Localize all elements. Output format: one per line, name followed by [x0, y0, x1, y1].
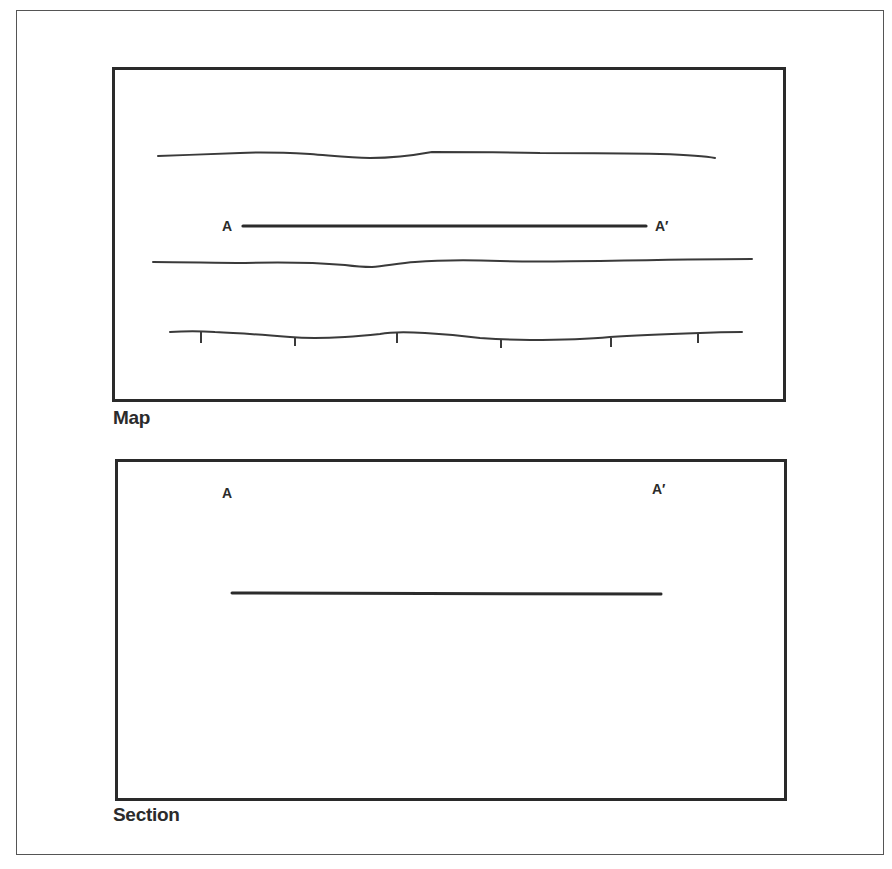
section-panel: [115, 459, 787, 801]
section-label-a: A: [222, 485, 232, 501]
map-caption: Map: [113, 407, 150, 429]
map-label-a: A: [222, 218, 232, 234]
map-label-a-prime: A′: [655, 218, 668, 234]
section-caption: Section: [113, 804, 180, 826]
map-panel: [112, 67, 786, 402]
section-label-a-prime: A′: [652, 481, 665, 497]
